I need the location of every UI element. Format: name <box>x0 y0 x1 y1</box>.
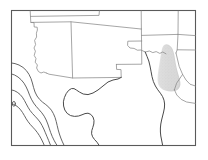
map-figure: Southwestern and South-Central United St… <box>0 0 208 160</box>
map-canvas <box>0 0 208 160</box>
